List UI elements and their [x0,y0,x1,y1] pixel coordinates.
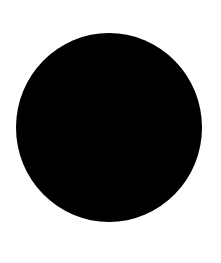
image-canvas [0,0,221,263]
black-circle-shape [16,33,202,222]
